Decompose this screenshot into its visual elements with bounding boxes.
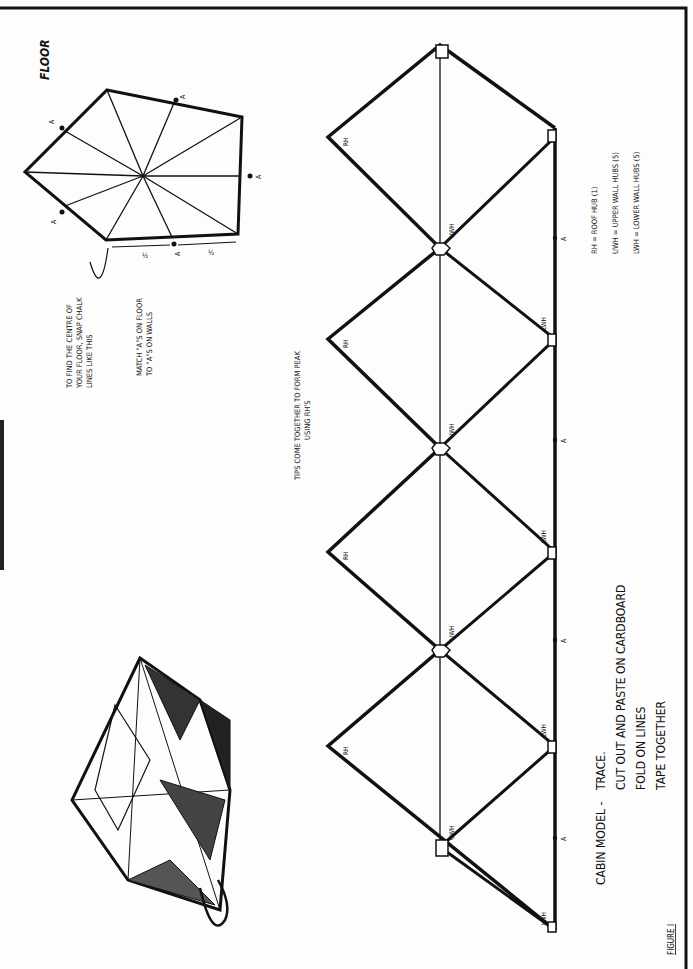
svg-text:YOUR FLOOR, SNAP CHALK: YOUR FLOOR, SNAP CHALK	[75, 297, 84, 389]
figure-label: FIGURE I	[667, 924, 676, 955]
rh-label: RH	[342, 340, 350, 348]
uwh-label: UWH	[448, 826, 456, 840]
uwh-label: UWH	[448, 626, 456, 640]
wall-roof-net	[328, 45, 555, 930]
hub-legend: RH = ROOF HUB (1) UWH = UPPER WALL HUBS …	[590, 151, 641, 254]
svg-text:A: A	[560, 638, 568, 643]
step-fold: FOLD ON LINES	[634, 706, 648, 790]
rh-label: RH	[342, 138, 350, 146]
lwh-label: LWH	[540, 317, 548, 330]
svg-text:A: A	[560, 836, 568, 841]
instructions: CABIN MODEL - TRACE. CUT OUT AND PASTE O…	[594, 585, 668, 885]
svg-text:TO "A"S ON WALLS: TO "A"S ON WALLS	[145, 312, 154, 377]
floor-pentagon	[25, 90, 242, 240]
match-note: MATCH "A"S ON FLOOR TO "A"S ON WALLS	[135, 298, 154, 377]
rh-label: RH	[342, 552, 350, 560]
svg-text:TIPS COME TOGETHER TO FORM PEA: TIPS COME TOGETHER TO FORM PEAK	[293, 351, 302, 481]
cabin-model-diagram: A A A A A ½ ½ FLOOR TO FIND THE CENTRE O…	[0, 0, 693, 969]
centre-note: TO FIND THE CENTRE OF YOUR FLOOR, SNAP C…	[65, 297, 94, 389]
tips-note: TIPS COME TOGETHER TO FORM PEAK USING RH…	[293, 351, 312, 481]
uwh-label: UWH	[448, 224, 456, 238]
svg-text:A: A	[174, 251, 182, 256]
uwh-label: UWH	[448, 424, 456, 438]
svg-text:USING RH'S: USING RH'S	[303, 400, 312, 440]
legend-lwh: LWH = LOWER WALL HUBS (5)	[632, 151, 641, 254]
svg-text:A: A	[179, 94, 187, 99]
svg-text:MATCH "A"S ON FLOOR: MATCH "A"S ON FLOOR	[135, 298, 144, 376]
rh-label: RH	[342, 747, 350, 755]
step-tape: TAPE TOGETHER	[654, 700, 668, 791]
legend-rh: RH = ROOF HUB (1)	[590, 186, 599, 254]
half-label-1: ½	[142, 252, 148, 260]
figure-page: A A A A A ½ ½ FLOOR TO FIND THE CENTRE O…	[0, 0, 693, 969]
lwh-label: LWH	[540, 530, 548, 543]
svg-text:LINES LIKE THIS: LINES LIKE THIS	[85, 334, 94, 388]
svg-text:A: A	[255, 174, 263, 179]
svg-text:TO FIND THE CENTRE OF: TO FIND THE CENTRE OF	[65, 304, 74, 389]
instructions-title: CABIN MODEL -	[594, 802, 608, 885]
svg-text:A: A	[48, 119, 56, 124]
step-cut-out: CUT OUT AND PASTE ON CARDBOARD	[614, 585, 628, 790]
hub-labels: RH RH RH RH UWH UWH UWH UWH LWH LWH LWH …	[342, 138, 548, 925]
centre-note-arrow	[90, 248, 108, 278]
lwh-label: LWH	[540, 724, 548, 737]
step-trace: TRACE.	[594, 751, 608, 791]
svg-text:A: A	[560, 438, 568, 443]
legend-uwh: UWH = UPPER WALL HUBS (5)	[611, 152, 620, 254]
svg-text:A: A	[50, 219, 58, 224]
floor-title: FLOOR	[38, 40, 52, 81]
svg-text:A: A	[560, 236, 568, 241]
half-label-2: ½	[208, 249, 214, 257]
lwh-label: LWH	[540, 912, 548, 925]
assembled-model-sketch	[72, 658, 230, 926]
